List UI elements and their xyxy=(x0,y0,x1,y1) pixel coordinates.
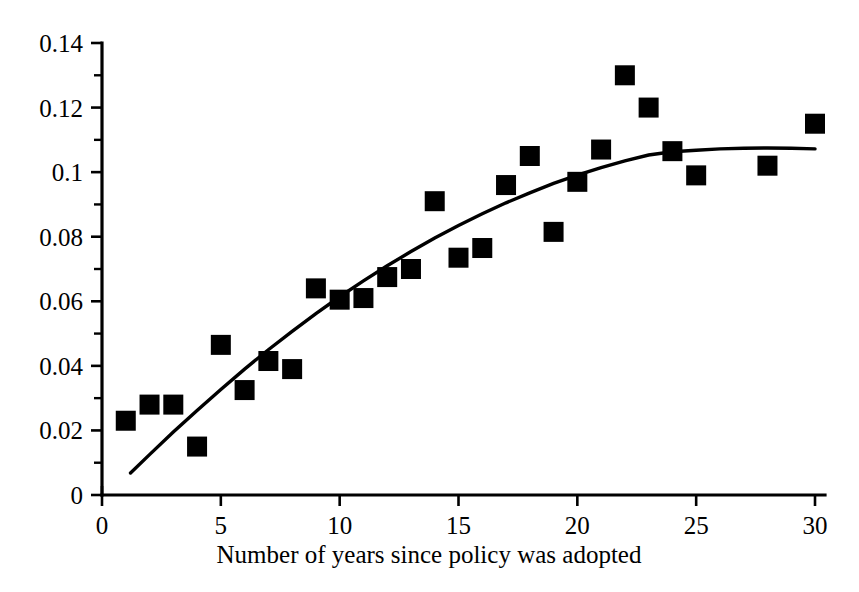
data-point-marker xyxy=(211,335,231,355)
y-tick-label-4: 0.08 xyxy=(39,224,83,251)
x-tick-label-3: 15 xyxy=(446,512,471,539)
data-point-marker xyxy=(449,248,469,268)
data-point-marker xyxy=(330,290,350,310)
data-point-marker xyxy=(282,359,302,379)
data-point-marker xyxy=(686,165,706,185)
y-tick-label-2: 0.04 xyxy=(39,353,83,380)
data-point-marker xyxy=(163,395,183,415)
x-tick-label-1: 5 xyxy=(215,512,228,539)
x-tick-label-2: 10 xyxy=(327,512,352,539)
x-axis-tick-labels: 051015202530 xyxy=(96,512,828,539)
scatter-plot: 00.020.040.060.080.10.120.14 05101520253… xyxy=(0,0,859,592)
data-point-marker xyxy=(353,288,373,308)
data-point-marker xyxy=(258,351,278,371)
data-point-marker xyxy=(377,267,397,287)
data-point-marker xyxy=(306,278,326,298)
chart-page: 00.020.040.060.080.10.120.14 05101520253… xyxy=(0,0,859,592)
y-tick-label-6: 0.12 xyxy=(39,95,83,122)
y-tick-label-0: 0 xyxy=(71,482,84,509)
data-point-marker xyxy=(615,65,635,85)
data-point-marker xyxy=(401,259,421,279)
data-point-marker xyxy=(639,98,659,118)
data-point-marker xyxy=(116,411,136,431)
data-point-markers xyxy=(116,65,825,456)
data-point-marker xyxy=(235,380,255,400)
data-point-marker xyxy=(805,114,825,134)
fitted-trend-curve xyxy=(131,148,815,473)
data-point-marker xyxy=(567,172,587,192)
y-tick-label-1: 0.02 xyxy=(39,417,83,444)
data-point-marker xyxy=(662,141,682,161)
y-axis-tick-labels: 00.020.040.060.080.10.120.14 xyxy=(39,30,83,509)
x-tick-label-6: 30 xyxy=(803,512,828,539)
data-point-marker xyxy=(140,395,160,415)
data-point-marker xyxy=(591,140,611,160)
y-tick-label-3: 0.06 xyxy=(39,288,83,315)
x-tick-label-0: 0 xyxy=(96,512,109,539)
x-tick-label-4: 20 xyxy=(565,512,590,539)
data-point-marker xyxy=(544,222,564,242)
y-tick-label-7: 0.14 xyxy=(39,30,83,57)
data-point-marker xyxy=(496,175,516,195)
x-tick-label-5: 25 xyxy=(684,512,709,539)
data-point-marker xyxy=(187,437,207,457)
y-tick-label-5: 0.1 xyxy=(52,159,83,186)
data-point-marker xyxy=(520,146,540,166)
data-point-marker xyxy=(425,191,445,211)
x-axis-title: Number of years since policy was adopted xyxy=(217,541,642,568)
data-point-marker xyxy=(472,238,492,258)
data-point-marker xyxy=(757,156,777,176)
